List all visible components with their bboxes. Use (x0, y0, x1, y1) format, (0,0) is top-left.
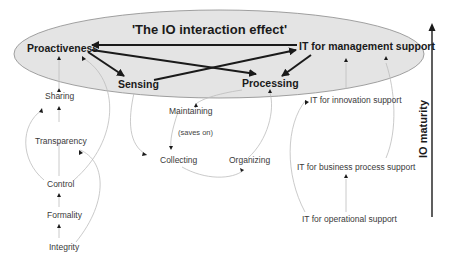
node-control: Control (47, 179, 74, 189)
node-sensing: Sensing (118, 78, 159, 90)
node-maintaining: Maintaining (169, 106, 212, 116)
node-it-management-support: IT for management support (299, 40, 435, 52)
node-organizing: Organizing (229, 155, 270, 165)
saves-on-annotation: (saves on) (178, 128, 213, 138)
io-maturity-label: IO maturity (417, 100, 429, 158)
node-formality: Formality (47, 210, 82, 220)
node-it-innovation-support: IT for innovation support (310, 95, 402, 105)
diagram-title: 'The IO interaction effect' (132, 22, 287, 37)
node-proactiveness: Proactiveness (27, 42, 98, 54)
node-it-operational-support: IT for operational support (302, 214, 397, 224)
node-collecting: Collecting (160, 155, 197, 165)
node-transparency: Transparency (35, 136, 87, 146)
node-it-business-process-support: IT for business process support (297, 162, 415, 172)
node-sharing: Sharing (45, 91, 74, 101)
axis-arrowhead-icon (429, 23, 436, 31)
node-processing: Processing (242, 77, 299, 89)
node-integrity: Integrity (49, 242, 79, 252)
